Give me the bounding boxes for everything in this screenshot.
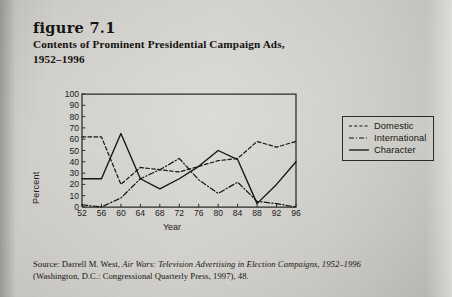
series-line-domestic	[82, 137, 296, 184]
figure-title-line-2: 1952–1996	[33, 52, 363, 66]
legend-item: International	[348, 132, 426, 144]
legend-label-domestic: Domestic	[374, 121, 414, 131]
legend-item: Domestic	[348, 120, 426, 132]
source-prefix: Source: Darrell M. West,	[33, 259, 122, 269]
figure-number: figure 7.1	[33, 20, 363, 35]
figure-title: Contents of Prominent Presidential Campa…	[33, 37, 363, 66]
source-title-italic: Air Wars: Television Advertising in Elec…	[122, 259, 361, 269]
legend-item: Character	[348, 144, 426, 156]
legend-swatch-domestic	[348, 121, 370, 131]
source-line-2: (Washington, D.C.: Congressional Quarter…	[33, 271, 249, 281]
legend-label-character: Character	[374, 145, 416, 155]
legend-swatch-character	[348, 145, 370, 155]
figure-heading: figure 7.1 Contents of Prominent Preside…	[33, 20, 363, 66]
page-left-edge-shadow	[0, 0, 16, 297]
source-note: Source: Darrell M. West, Air Wars: Telev…	[33, 258, 433, 282]
chart-legend: Domestic International Character	[342, 116, 434, 161]
figure-title-line-1: Contents of Prominent Presidential Campa…	[33, 37, 363, 51]
series-line-international	[82, 158, 296, 207]
legend-label-international: International	[374, 133, 426, 143]
line-chart: Percent 0102030405060708090100 525660646…	[33, 86, 423, 232]
legend-swatch-international	[348, 133, 370, 143]
